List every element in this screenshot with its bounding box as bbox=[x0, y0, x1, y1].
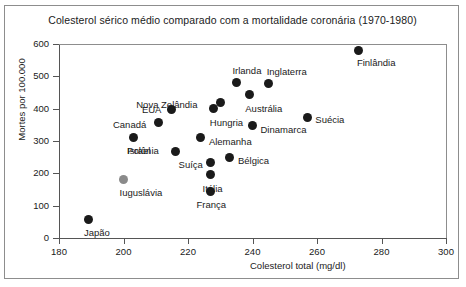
data-point bbox=[84, 215, 93, 224]
data-point-label: Polônia bbox=[127, 145, 159, 156]
y-tick-label: 0 bbox=[7, 232, 49, 243]
data-point-label: Japão bbox=[84, 227, 110, 238]
data-point-label: Finlândia bbox=[357, 57, 396, 68]
x-tick bbox=[253, 238, 254, 244]
data-point-label: Canadá bbox=[113, 119, 146, 130]
data-point-label: Bélgica bbox=[238, 155, 269, 166]
data-point bbox=[245, 90, 254, 99]
x-tick-label: 240 bbox=[233, 246, 273, 257]
data-point bbox=[171, 147, 180, 156]
data-point bbox=[206, 187, 215, 196]
data-point-label: EUA bbox=[142, 104, 162, 115]
y-tick-label: 100 bbox=[7, 200, 49, 211]
y-tick-label: 500 bbox=[7, 70, 49, 81]
data-point-label: Suécia bbox=[315, 114, 344, 125]
x-tick bbox=[188, 238, 189, 244]
x-tick-label: 260 bbox=[297, 246, 337, 257]
y-tick-label: 600 bbox=[7, 38, 49, 49]
x-tick bbox=[382, 238, 383, 244]
data-point bbox=[119, 175, 128, 184]
data-point bbox=[303, 113, 312, 122]
chart-frame: Colesterol sérico médio comparado com a … bbox=[4, 5, 459, 279]
y-tick-label: 400 bbox=[7, 103, 49, 114]
x-tick-label: 220 bbox=[168, 246, 208, 257]
data-point-label: Dinamarca bbox=[261, 124, 307, 135]
x-tick-label: 280 bbox=[362, 246, 402, 257]
y-tick-label: 200 bbox=[7, 167, 49, 178]
data-point-label: Hungria bbox=[210, 117, 243, 128]
data-point-label: Inglaterra bbox=[267, 66, 307, 77]
x-tick bbox=[317, 238, 318, 244]
data-point-label: Suíça bbox=[179, 159, 203, 170]
plot-right-border bbox=[446, 44, 447, 239]
y-tick-label: 300 bbox=[7, 135, 49, 146]
x-tick bbox=[124, 238, 125, 244]
data-point-label: Irlanda bbox=[232, 65, 261, 76]
x-axis-label: Colesterol total (mg/dl) bbox=[250, 260, 450, 271]
x-tick-label: 200 bbox=[104, 246, 144, 257]
data-point-label: Alemanha bbox=[209, 136, 252, 147]
data-point-label: Austrália bbox=[245, 103, 282, 114]
chart-title: Colesterol sérico médio comparado com a … bbox=[5, 14, 460, 26]
data-point bbox=[129, 133, 138, 142]
data-point-label: França bbox=[197, 199, 227, 210]
x-tick bbox=[446, 238, 447, 244]
data-point-label: Iuguslávia bbox=[120, 187, 163, 198]
x-tick-label: 300 bbox=[426, 246, 466, 257]
x-tick-label: 180 bbox=[39, 246, 79, 257]
x-tick bbox=[59, 238, 60, 244]
